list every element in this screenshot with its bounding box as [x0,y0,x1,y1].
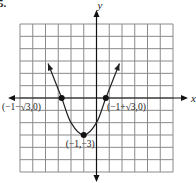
graph-figure: 5. xy (−1−√3,0)(−1+√3,0)(−1,−3) [0,0,196,183]
parabola-plot: xy (−1−√3,0)(−1+√3,0)(−1,−3) [0,0,196,183]
problem-number: 5. [0,0,6,9]
svg-text:x: x [190,92,196,104]
point-labels: (−1−√3,0)(−1+√3,0)(−1,−3) [2,102,146,150]
axes: xy [8,0,196,182]
svg-text:(−1,−3): (−1,−3) [66,139,95,150]
svg-text:(−1+√3,0): (−1+√3,0) [107,102,146,113]
svg-text:y: y [97,0,103,11]
svg-text:(−1−√3,0): (−1−√3,0) [2,102,41,113]
